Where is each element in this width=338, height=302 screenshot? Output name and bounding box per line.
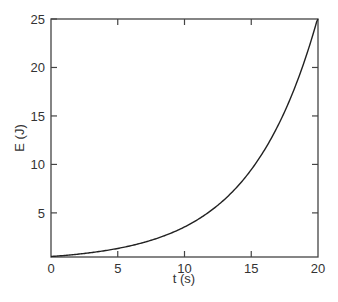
energy-curve bbox=[51, 19, 318, 257]
y-tick-label: 10 bbox=[31, 157, 45, 172]
plot-frame bbox=[51, 19, 318, 257]
y-tick-label: 25 bbox=[31, 12, 45, 27]
energy-time-chart: 05101520 510152025 t (s) E (J) bbox=[0, 0, 338, 302]
x-tick-label: 15 bbox=[244, 261, 258, 276]
x-axis-ticks: 05101520 bbox=[47, 19, 325, 276]
y-tick-label: 15 bbox=[31, 109, 45, 124]
x-tick-label: 0 bbox=[47, 261, 54, 276]
y-axis-ticks: 510152025 bbox=[31, 12, 318, 221]
x-tick-label: 20 bbox=[311, 261, 325, 276]
y-tick-label: 20 bbox=[31, 60, 45, 75]
y-tick-label: 5 bbox=[38, 206, 45, 221]
x-axis-label: t (s) bbox=[173, 271, 195, 286]
x-tick-label: 5 bbox=[114, 261, 121, 276]
y-axis-label: E (J) bbox=[12, 124, 27, 151]
